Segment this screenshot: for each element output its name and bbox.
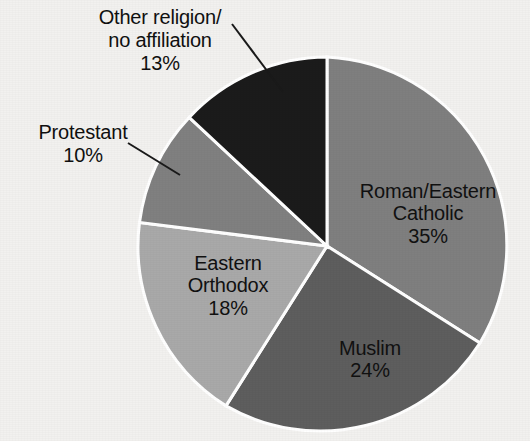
slice-label-percent: 10% [8, 144, 158, 167]
pie-chart-figure: Roman/Eastern Catholic 35% Muslim 24% Ea… [0, 0, 530, 441]
slice-label-line1: Protestant [38, 121, 127, 143]
slice-label-other-religion-no-affiliation: Other religion/ no affiliation 13% [60, 6, 260, 75]
slice-label-line2: no affiliation [60, 29, 260, 52]
slice-label-line1: Other religion/ [99, 6, 222, 28]
slice-label-percent: 13% [60, 52, 260, 75]
slice-label-protestant: Protestant 10% [8, 121, 158, 167]
